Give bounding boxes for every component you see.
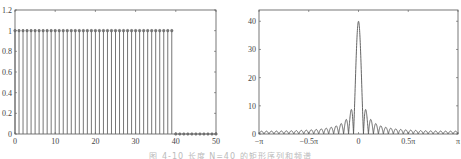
stem-marker [150, 29, 153, 32]
x-tick-label: 0 [357, 137, 361, 146]
y-tick-label: 0.2 [2, 109, 12, 118]
x-tick-label: 0.5π [401, 137, 415, 146]
stem-marker [58, 29, 61, 32]
stem-marker [30, 29, 33, 32]
stem-marker [98, 29, 101, 32]
stem-marker [14, 29, 17, 32]
stem-marker [70, 29, 73, 32]
stem-marker [175, 133, 178, 136]
stem-marker [146, 29, 149, 32]
y-tick-label: 40 [248, 17, 256, 26]
stem-marker [106, 29, 109, 32]
y-tick-label: 0.8 [2, 47, 12, 56]
stem-marker [134, 29, 137, 32]
stem-marker [66, 29, 69, 32]
y-tick-label: 0 [8, 130, 12, 139]
figure-caption: 图 4-10 长度 N=40 的矩形序列和频谱 [0, 150, 461, 159]
stem-marker [207, 133, 210, 136]
stem-marker [130, 29, 133, 32]
stem-marker [74, 29, 77, 32]
stem-marker [203, 133, 206, 136]
stem-marker [211, 133, 214, 136]
stem-marker [142, 29, 145, 32]
stem-marker [122, 29, 125, 32]
x-tick-label: −π [255, 137, 264, 146]
stem-marker [78, 29, 81, 32]
y-tick-label: 0.6 [2, 68, 12, 77]
y-tick-label: 30 [248, 45, 256, 54]
stem-marker [102, 29, 105, 32]
stem-marker [38, 29, 41, 32]
stem-marker [110, 29, 113, 32]
stem-marker [114, 29, 117, 32]
y-tick-label: 10 [248, 102, 256, 111]
stem-marker [86, 29, 89, 32]
stem-marker [158, 29, 161, 32]
stem-marker [82, 29, 85, 32]
stem-marker [195, 133, 198, 136]
stem-marker [126, 29, 129, 32]
x-tick-label: 10 [51, 137, 59, 146]
stem-marker [94, 29, 97, 32]
stem-marker [187, 133, 190, 136]
y-tick-label: 0.4 [2, 89, 12, 98]
stem-marker [62, 29, 65, 32]
x-tick-label: π [456, 137, 460, 146]
stem-marker [191, 133, 194, 136]
stem-marker [54, 29, 57, 32]
stem-marker [18, 29, 21, 32]
magnitude-spectrum-plot: −π−0.5π00.5ππ010203040 [248, 10, 460, 146]
stem-marker [50, 29, 53, 32]
x-tick-label: −0.5π [299, 137, 318, 146]
y-tick-label: 1.2 [2, 6, 12, 15]
x-tick-label: 20 [91, 137, 99, 146]
stem-marker [199, 133, 202, 136]
stem-marker [162, 29, 165, 32]
x-tick-label: 50 [212, 137, 220, 146]
right-axes-frame [259, 10, 458, 134]
stem-marker [22, 29, 25, 32]
stem-marker [215, 133, 218, 136]
stem-marker [118, 29, 121, 32]
y-tick-label: 20 [248, 74, 256, 83]
stem-marker [166, 29, 169, 32]
stem-marker [170, 29, 173, 32]
stem-marker [46, 29, 49, 32]
stem-marker [179, 133, 182, 136]
spectrum-curve [259, 21, 458, 134]
stem-marker [138, 29, 141, 32]
rect-sequence-stem-plot: 0102030405000.20.40.60.811.2 [2, 6, 220, 146]
x-tick-label: 30 [132, 137, 140, 146]
y-tick-label: 1 [8, 27, 12, 36]
stem-marker [183, 133, 186, 136]
stem-marker [154, 29, 157, 32]
stem-marker [34, 29, 37, 32]
x-tick-label: 0 [13, 137, 17, 146]
x-tick-label: 40 [172, 137, 180, 146]
stem-marker [90, 29, 93, 32]
stem-marker [42, 29, 45, 32]
y-tick-label: 0 [252, 130, 256, 139]
stem-marker [26, 29, 29, 32]
figure: 0102030405000.20.40.60.811.2 −π−0.5π00.5… [0, 0, 461, 159]
